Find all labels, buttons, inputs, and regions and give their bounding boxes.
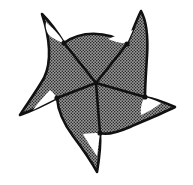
figure-canvas <box>0 0 193 185</box>
vertex-dot-upper-left <box>61 40 66 45</box>
vertex-dot-upper-right <box>124 41 129 46</box>
center-point <box>94 81 98 85</box>
vertex-dot-bottom <box>97 130 102 135</box>
pentaradial-organism-figure <box>0 0 193 185</box>
vertex-dot-right <box>142 94 147 99</box>
vertex-dot-left <box>54 95 59 100</box>
